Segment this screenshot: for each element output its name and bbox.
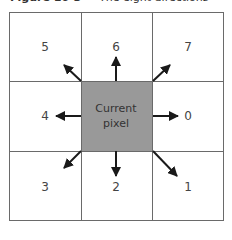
arrow-3-icon (64, 151, 81, 168)
direction-label-1: 1 (184, 180, 192, 194)
arrow-5-icon (64, 65, 81, 81)
direction-label-5: 5 (41, 40, 49, 54)
arrow-1-icon (153, 151, 177, 176)
arrow-7-icon (153, 65, 170, 81)
direction-label-3: 3 (41, 180, 49, 194)
direction-label-6: 6 (112, 40, 120, 54)
direction-label-0: 0 (184, 109, 192, 123)
direction-label-7: 7 (184, 40, 192, 54)
direction-label-2: 2 (112, 180, 120, 194)
direction-label-4: 4 (41, 109, 49, 123)
